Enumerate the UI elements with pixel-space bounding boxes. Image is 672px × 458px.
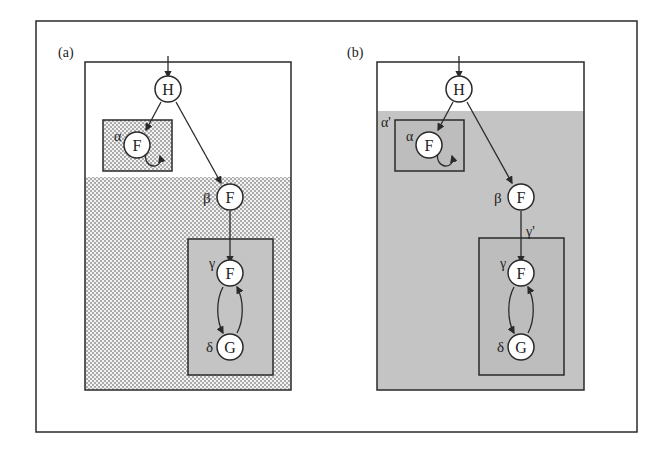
- svg-text:F: F: [226, 265, 235, 282]
- node-h: H: [446, 76, 472, 102]
- gamma-prime-label: γ': [525, 224, 535, 239]
- svg-text:α: α: [406, 129, 414, 144]
- alpha-prime-label: α': [381, 115, 391, 130]
- svg-text:γ: γ: [208, 256, 215, 271]
- svg-text:γ: γ: [499, 256, 506, 271]
- svg-text:H: H: [453, 81, 465, 98]
- svg-text:δ: δ: [497, 339, 504, 355]
- node-h: H: [155, 76, 181, 102]
- svg-text:β: β: [494, 190, 502, 206]
- panel-a: (a) H F α F β F: [58, 45, 291, 390]
- figure: (a) H F α F β F: [0, 0, 672, 458]
- svg-text:F: F: [226, 189, 235, 206]
- panel-b: (b) α' γ' H F α F β F γ: [347, 45, 584, 390]
- svg-text:β: β: [203, 190, 211, 206]
- svg-text:F: F: [425, 137, 434, 154]
- svg-text:F: F: [517, 265, 526, 282]
- svg-text:α: α: [114, 129, 122, 144]
- svg-text:F: F: [133, 137, 142, 154]
- panel-a-label: (a): [58, 45, 74, 61]
- svg-text:G: G: [515, 339, 527, 356]
- svg-text:H: H: [162, 81, 174, 98]
- panel-b-label: (b): [347, 45, 364, 61]
- svg-text:δ: δ: [206, 339, 213, 355]
- svg-text:G: G: [224, 339, 236, 356]
- svg-text:F: F: [517, 189, 526, 206]
